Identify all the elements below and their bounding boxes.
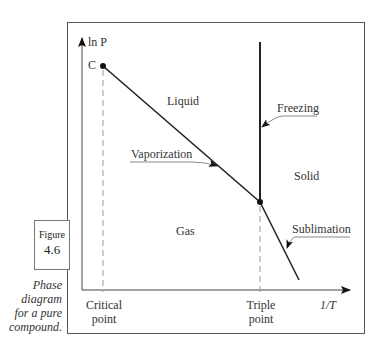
figure-caption: Phase diagram for a pure compound. (2, 278, 62, 334)
freezing-leader-arrow (262, 116, 317, 127)
triple-point-dot (257, 199, 263, 205)
caption-line-4: compound. (2, 320, 62, 334)
caption-line-2: diagram (2, 292, 62, 306)
region-liquid: Liquid (167, 94, 199, 108)
triple-point-label: Triple point (240, 298, 282, 326)
figure-word: Figure (35, 229, 69, 240)
region-solid: Solid (294, 169, 319, 183)
vaporization-label: Vaporization (131, 147, 192, 161)
region-gas: Gas (176, 224, 195, 238)
x-axis-label: 1/T (320, 298, 336, 312)
freezing-label: Freezing (277, 101, 319, 115)
caption-line-1: Phase (2, 278, 62, 292)
sublimation-leader-arrow (287, 237, 350, 248)
triple-label-line-1: Triple (240, 298, 282, 312)
caption-line-3: for a pure (2, 306, 62, 320)
sublimation-curve (260, 202, 299, 280)
sublimation-label: Sublimation (292, 222, 351, 236)
critical-point-marker: C (88, 58, 96, 72)
y-axis-label: ln P (88, 35, 107, 49)
critical-point-label: Critical point (82, 298, 126, 326)
critical-point-dot (100, 63, 106, 69)
figure-number: 4.6 (35, 242, 69, 258)
vaporization-leader-arrow (130, 162, 217, 166)
critical-label-line-2: point (82, 312, 126, 326)
triple-label-line-2: point (240, 312, 282, 326)
figure-number-box: Figure 4.6 (34, 220, 70, 270)
vaporization-curve (103, 66, 260, 202)
critical-label-line-1: Critical (82, 298, 126, 312)
